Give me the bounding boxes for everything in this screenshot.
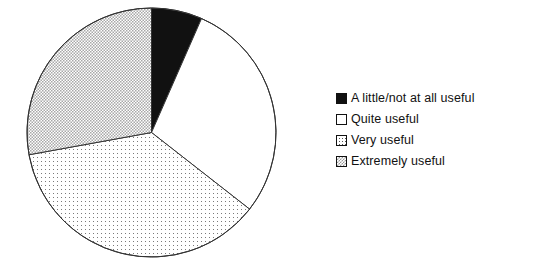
pie-slice[interactable] bbox=[27, 8, 151, 155]
legend-item-very-useful[interactable]: Very useful bbox=[336, 130, 532, 151]
legend-label: Extremely useful bbox=[351, 155, 445, 168]
legend-label: Very useful bbox=[351, 134, 414, 147]
pie-chart-figure: A little/not at all useful Quite useful … bbox=[0, 0, 540, 269]
chart-legend: A little/not at all useful Quite useful … bbox=[336, 88, 532, 184]
pie-slice-group bbox=[27, 8, 276, 257]
legend-swatch-solid-black-icon bbox=[336, 93, 347, 104]
legend-swatch-sparse-dots-icon bbox=[336, 135, 347, 146]
legend-item-extremely-useful[interactable]: Extremely useful bbox=[336, 151, 532, 172]
legend-label: Quite useful bbox=[351, 113, 419, 126]
legend-item-a-little-not-at-all-useful[interactable]: A little/not at all useful bbox=[336, 88, 532, 109]
legend-swatch-empty-white-icon bbox=[336, 114, 347, 125]
legend-swatch-dense-checker-icon bbox=[336, 156, 347, 167]
pie-chart-plot-area bbox=[0, 0, 310, 269]
legend-item-quite-useful[interactable]: Quite useful bbox=[336, 109, 532, 130]
pie-chart-svg bbox=[0, 0, 310, 269]
legend-label: A little/not at all useful bbox=[351, 92, 475, 105]
